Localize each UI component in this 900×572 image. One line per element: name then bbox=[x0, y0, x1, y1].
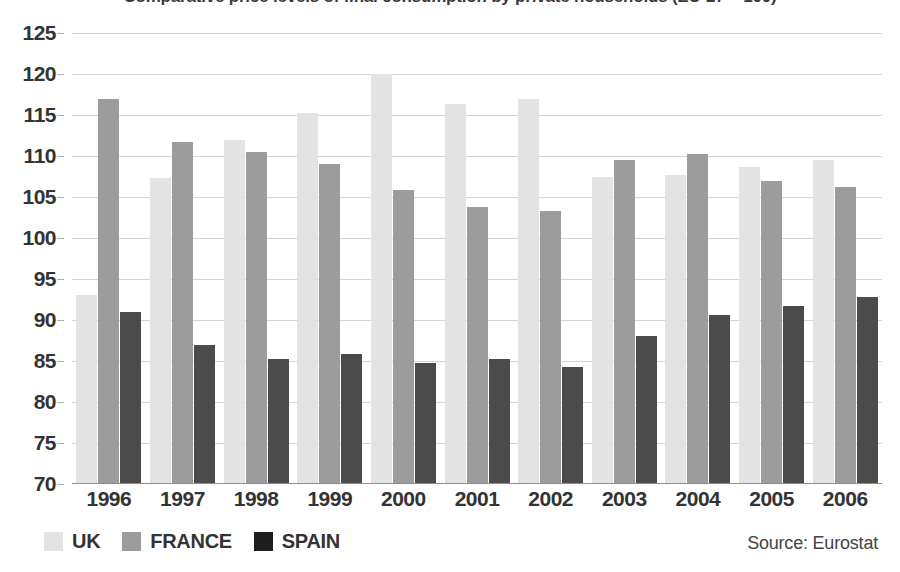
bar-france-1996[interactable] bbox=[98, 99, 119, 484]
legend-swatch-fr bbox=[122, 532, 141, 551]
y-axis-tick-label: 120 bbox=[22, 62, 56, 86]
legend-label-fr: FRANCE bbox=[150, 530, 232, 553]
bar-france-2004[interactable] bbox=[687, 154, 708, 484]
x-axis-tick-label: 2000 bbox=[367, 487, 441, 517]
bar-uk-1998[interactable] bbox=[224, 140, 245, 484]
y-axis-tick-label: 105 bbox=[22, 185, 56, 209]
bar-spain-2002[interactable] bbox=[562, 367, 583, 484]
y-axis-tick-label: 115 bbox=[24, 103, 56, 127]
x-axis-tick-label: 2001 bbox=[440, 487, 514, 517]
bar-group bbox=[735, 33, 809, 484]
bar-spain-2003[interactable] bbox=[636, 336, 657, 484]
x-axis-tick-label: 2004 bbox=[661, 487, 735, 517]
bar-spain-1997[interactable] bbox=[194, 345, 215, 484]
legend-label-uk: UK bbox=[72, 530, 100, 553]
chart-title: Comparative price levels of final consum… bbox=[0, 0, 900, 7]
x-axis-tick-label: 2005 bbox=[735, 487, 809, 517]
y-axis-tick-mark bbox=[57, 279, 64, 280]
y-axis-tick-mark bbox=[57, 484, 64, 485]
y-axis-tick-label: 85 bbox=[34, 349, 56, 373]
bar-france-1997[interactable] bbox=[172, 142, 193, 484]
bar-spain-1999[interactable] bbox=[341, 354, 362, 484]
y-axis-tick-label: 90 bbox=[34, 308, 56, 332]
x-axis-tick-label: 1998 bbox=[219, 487, 293, 517]
y-axis-tick-label: 110 bbox=[24, 144, 56, 168]
bar-uk-2005[interactable] bbox=[739, 167, 760, 484]
y-axis-tick-mark bbox=[57, 74, 64, 75]
y-axis-tick-mark bbox=[57, 238, 64, 239]
x-axis-tick-label: 1997 bbox=[146, 487, 220, 517]
y-axis-tick-mark bbox=[57, 197, 64, 198]
bar-spain-2004[interactable] bbox=[709, 315, 730, 484]
bar-france-2000[interactable] bbox=[393, 190, 414, 484]
y-axis-tick-mark bbox=[57, 361, 64, 362]
bar-uk-2001[interactable] bbox=[445, 104, 466, 484]
chart-legend: UKFRANCESPAIN bbox=[44, 530, 340, 553]
bar-group bbox=[661, 33, 735, 484]
bars-layer bbox=[72, 33, 882, 484]
source-note: Source: Eurostat bbox=[747, 533, 878, 554]
bar-spain-2000[interactable] bbox=[415, 363, 436, 484]
y-axis-tick-mark bbox=[57, 320, 64, 321]
y-axis-tick-mark bbox=[57, 156, 64, 157]
bar-group bbox=[587, 33, 661, 484]
bar-spain-2006[interactable] bbox=[857, 297, 878, 484]
bar-group bbox=[367, 33, 441, 484]
bar-spain-2001[interactable] bbox=[489, 359, 510, 484]
bar-uk-2002[interactable] bbox=[518, 99, 539, 484]
bar-uk-1997[interactable] bbox=[150, 178, 171, 484]
x-axis-tick-label: 1996 bbox=[72, 487, 146, 517]
x-axis: 1996199719981999200020012002200320042005… bbox=[72, 487, 882, 517]
x-axis-tick-label: 2002 bbox=[514, 487, 588, 517]
bar-uk-2004[interactable] bbox=[665, 175, 686, 484]
bar-uk-2003[interactable] bbox=[592, 177, 613, 485]
bar-france-2003[interactable] bbox=[614, 160, 635, 484]
bar-france-2001[interactable] bbox=[467, 207, 488, 484]
bar-group bbox=[514, 33, 588, 484]
x-axis-line bbox=[72, 483, 882, 485]
legend-item-fr[interactable]: FRANCE bbox=[122, 530, 232, 553]
legend-swatch-sp bbox=[254, 532, 273, 551]
bar-group bbox=[219, 33, 293, 484]
legend-item-uk[interactable]: UK bbox=[44, 530, 100, 553]
x-axis-tick-label: 1999 bbox=[293, 487, 367, 517]
bar-group bbox=[146, 33, 220, 484]
legend-item-sp[interactable]: SPAIN bbox=[254, 530, 340, 553]
bar-spain-1996[interactable] bbox=[120, 312, 141, 484]
y-axis-tick-mark bbox=[57, 115, 64, 116]
bar-france-1998[interactable] bbox=[246, 152, 267, 484]
bar-spain-2005[interactable] bbox=[783, 306, 804, 484]
y-axis-tick-label: 100 bbox=[22, 226, 56, 250]
bar-group bbox=[293, 33, 367, 484]
bar-group bbox=[440, 33, 514, 484]
bar-france-2006[interactable] bbox=[835, 187, 856, 484]
y-axis-tick-mark bbox=[57, 402, 64, 403]
plot-area bbox=[72, 33, 882, 484]
y-axis-tick-mark bbox=[57, 33, 64, 34]
legend-swatch-uk bbox=[44, 532, 63, 551]
bar-group bbox=[72, 33, 146, 484]
y-axis-tick-label: 125 bbox=[22, 21, 56, 45]
y-axis: 707580859095100105110115120125 bbox=[0, 33, 64, 484]
bar-france-2002[interactable] bbox=[540, 211, 561, 484]
bar-uk-2006[interactable] bbox=[813, 160, 834, 484]
y-axis-tick-label: 70 bbox=[34, 472, 56, 496]
y-axis-tick-label: 80 bbox=[34, 390, 56, 414]
bar-uk-2000[interactable] bbox=[371, 74, 392, 484]
bar-france-2005[interactable] bbox=[761, 181, 782, 484]
bar-uk-1996[interactable] bbox=[76, 295, 97, 484]
bar-uk-1999[interactable] bbox=[297, 113, 318, 484]
y-axis-tick-label: 75 bbox=[34, 431, 56, 455]
bar-spain-1998[interactable] bbox=[268, 359, 289, 484]
bar-group bbox=[808, 33, 882, 484]
bar-france-1999[interactable] bbox=[319, 164, 340, 484]
x-axis-tick-label: 2003 bbox=[587, 487, 661, 517]
y-axis-tick-label: 95 bbox=[34, 267, 56, 291]
legend-label-sp: SPAIN bbox=[282, 530, 340, 553]
x-axis-tick-label: 2006 bbox=[808, 487, 882, 517]
y-axis-tick-mark bbox=[57, 443, 64, 444]
